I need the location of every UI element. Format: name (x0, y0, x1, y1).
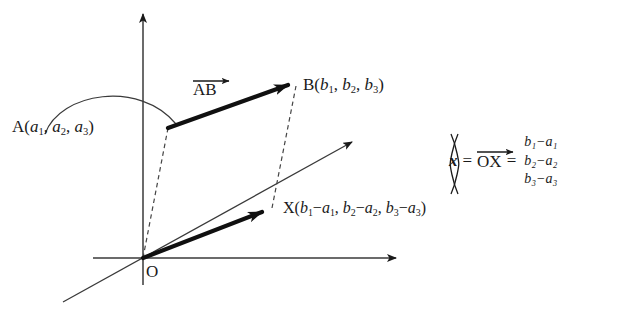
equals-sign-1: = (463, 151, 473, 171)
matrix-row-1: b₁−a₁ (524, 134, 557, 151)
matrix-row-3: b₃−a₃ (524, 171, 557, 188)
point-label-x: X(b1−a1, b2−a2, b3−a3) (283, 200, 426, 216)
vector-arrow-overline-ox (477, 149, 519, 155)
vector-diagram-figure: A(a1, a2, a3) B(b1, b2, b3) X(b1−a1, b2−… (0, 0, 641, 321)
column-vector-rows: b₁−a₁ b₂−a₂ b₃−a₃ (521, 133, 560, 189)
point-label-a: A(a1, a2, a3) (12, 118, 94, 135)
dashed-guide-oa (143, 128, 168, 258)
vector-ox (143, 212, 262, 258)
right-paren (449, 133, 460, 195)
origin-label: O (146, 263, 158, 280)
depth-axis (63, 142, 352, 302)
vector-arrow-overline-ab (193, 78, 235, 84)
dashed-guide-xb (272, 86, 296, 208)
vector-label-ox: OX (477, 149, 502, 172)
column-vector: b₁−a₁ b₂−a₂ b₃−a₃ (521, 133, 560, 189)
vector-ab (168, 85, 288, 128)
matrix-row-2: b₂−a₂ (524, 153, 557, 170)
point-label-b: B(b1, b2, b3) (303, 76, 384, 93)
vector-equation: x = OX = b₁−a₁ b₂−a₂ b₃−a₃ (449, 133, 560, 189)
vector-label-ab: AB (193, 78, 217, 98)
